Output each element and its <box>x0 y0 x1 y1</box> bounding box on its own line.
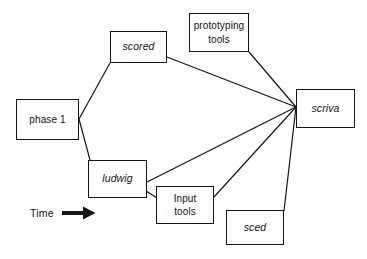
time-axis-label: Time <box>30 207 54 219</box>
node-scriva-label: scriva <box>311 102 339 116</box>
node-scored[interactable]: scored <box>110 31 167 63</box>
node-input-tools[interactable]: Input tools <box>156 186 214 224</box>
node-scored-label: scored <box>122 40 154 54</box>
node-input-tools-label: Input tools <box>174 192 197 218</box>
edge-phase1-to-scored <box>79 63 110 119</box>
edge-phase1-to-ludwig <box>79 119 90 160</box>
node-phase1-label: phase 1 <box>29 113 65 126</box>
node-phase1[interactable]: phase 1 <box>16 99 79 140</box>
node-ludwig[interactable]: ludwig <box>88 160 147 198</box>
node-scriva[interactable]: scriva <box>296 89 355 128</box>
node-prototyping-tools-label: prototyping tools <box>194 19 245 45</box>
node-ludwig-label: ludwig <box>102 172 132 186</box>
time-axis: Time <box>30 206 96 220</box>
node-sced-label: sced <box>244 221 267 235</box>
right-arrow-icon <box>62 206 96 220</box>
node-prototyping-tools[interactable]: prototyping tools <box>189 13 249 52</box>
edge-input-tools-to-scriva <box>214 107 296 197</box>
diagram-canvas: phase 1 scored prototyping tools scriva … <box>0 0 367 259</box>
edge-ludwig-to-scriva <box>147 107 296 182</box>
edge-prototyping-tools-to-scriva <box>249 52 296 107</box>
node-sced[interactable]: sced <box>226 210 284 245</box>
edge-scored-to-scriva <box>167 57 296 107</box>
edge-sced-to-scriva <box>284 107 296 211</box>
